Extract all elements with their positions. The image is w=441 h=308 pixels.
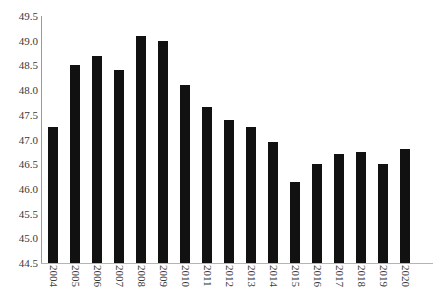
bar-slot — [152, 16, 174, 263]
x-axis-tick-label: 2015 — [290, 265, 301, 287]
x-axis-tick-labels: 2004200520062007200820092010201120122013… — [42, 264, 433, 308]
y-axis-tick-label: 45.5 — [4, 208, 38, 219]
bar — [334, 154, 344, 263]
bar-slot — [240, 16, 262, 263]
bar-slot — [86, 16, 108, 263]
x-axis-tick-label: 2005 — [70, 265, 81, 287]
x-axis-tick-label: 2007 — [114, 265, 125, 287]
bar — [400, 149, 410, 263]
x-axis-tick-label: 2020 — [400, 265, 411, 287]
y-axis-tick-label: 47.0 — [4, 134, 38, 145]
x-axis-tick-slot: 2012 — [218, 264, 240, 308]
x-axis-tick-slot: 2016 — [306, 264, 328, 308]
bar — [158, 41, 168, 263]
x-axis-tick-label: 2008 — [136, 265, 147, 287]
x-axis-tick-label: 2009 — [158, 265, 169, 287]
bar — [180, 85, 190, 263]
bar-slot — [306, 16, 328, 263]
bar — [136, 36, 146, 263]
x-axis-tick-slot: 2015 — [284, 264, 306, 308]
bar-slot — [108, 16, 130, 263]
y-axis-tick-label: 46.0 — [4, 183, 38, 194]
x-axis-tick-slot: 2018 — [350, 264, 372, 308]
y-axis-tick-label: 49.5 — [4, 11, 38, 22]
bar — [48, 127, 58, 263]
x-axis-tick-label: 2012 — [224, 265, 235, 287]
x-axis-tick-label: 2014 — [268, 265, 279, 287]
x-axis-tick-label: 2006 — [92, 265, 103, 287]
x-axis-tick-label: 2013 — [246, 265, 257, 287]
bar-slot — [284, 16, 306, 263]
bar-slot — [64, 16, 86, 263]
bar-slot — [328, 16, 350, 263]
x-axis-tick-label: 2016 — [312, 265, 323, 287]
bar — [224, 120, 234, 263]
bar — [378, 164, 388, 263]
x-axis-tick-slot: 2004 — [42, 264, 64, 308]
bar-slot — [394, 16, 416, 263]
x-axis-tick-label: 2010 — [180, 265, 191, 287]
x-axis-tick-slot: 2009 — [152, 264, 174, 308]
y-axis-tick-label: 48.5 — [4, 60, 38, 71]
bar — [268, 142, 278, 263]
bar — [70, 65, 80, 263]
bar-slot — [196, 16, 218, 263]
x-axis-tick-label: 2004 — [48, 265, 59, 287]
x-axis-tick-slot: 2020 — [394, 264, 416, 308]
x-axis-tick-slot: 2007 — [108, 264, 130, 308]
x-axis-tick-slot: 2017 — [328, 264, 350, 308]
bar-chart: 44.545.045.546.046.547.047.548.048.549.0… — [0, 0, 441, 308]
y-axis-tick-label: 48.0 — [4, 85, 38, 96]
y-axis-tick-label: 46.5 — [4, 159, 38, 170]
bar-slot — [130, 16, 152, 263]
x-axis-tick-slot: 2006 — [86, 264, 108, 308]
x-axis-tick-slot: 2019 — [372, 264, 394, 308]
bar — [92, 56, 102, 263]
bar-slot — [218, 16, 240, 263]
x-axis-tick-slot: 2011 — [196, 264, 218, 308]
x-axis-tick-slot: 2005 — [64, 264, 86, 308]
x-axis-tick-label: 2018 — [356, 265, 367, 287]
x-axis-tick-slot: 2008 — [130, 264, 152, 308]
bar — [246, 127, 256, 263]
x-axis-tick-slot: 2010 — [174, 264, 196, 308]
bar — [202, 107, 212, 263]
bar-slot — [262, 16, 284, 263]
bar — [114, 70, 124, 263]
y-axis-tick-label: 49.0 — [4, 35, 38, 46]
x-axis-tick-label: 2011 — [202, 265, 213, 287]
bar — [312, 164, 322, 263]
bar-slot — [372, 16, 394, 263]
bar — [290, 182, 300, 264]
plot-area — [42, 16, 433, 263]
bar — [356, 152, 366, 263]
y-axis-tick-labels: 44.545.045.546.046.547.047.548.048.549.0… — [0, 0, 38, 308]
x-axis-tick-label: 2019 — [378, 265, 389, 287]
bar-slot — [350, 16, 372, 263]
x-axis-tick-slot: 2014 — [262, 264, 284, 308]
x-axis-tick-label: 2017 — [334, 265, 345, 287]
y-axis-tick-label: 45.0 — [4, 233, 38, 244]
y-axis-tick-label: 44.5 — [4, 258, 38, 269]
y-axis-tick-label: 47.5 — [4, 109, 38, 120]
bar-slot — [174, 16, 196, 263]
x-axis-tick-slot: 2013 — [240, 264, 262, 308]
bar-slot — [42, 16, 64, 263]
